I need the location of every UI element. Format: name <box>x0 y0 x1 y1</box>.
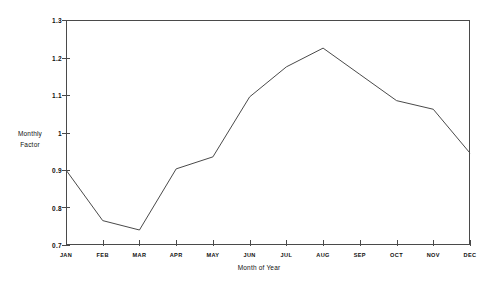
x-axis-tick-label: FEB <box>97 252 109 258</box>
x-axis-tick-label: MAR <box>133 252 147 258</box>
x-axis-tick-label: OCT <box>390 252 403 258</box>
y-axis-title-line-1: Monthly <box>8 128 52 139</box>
y-axis-tick-label: 0.8 <box>52 204 62 211</box>
line-series-monthly-factor <box>66 20 470 245</box>
x-axis-tick-mark <box>103 240 104 246</box>
x-axis-tick-mark <box>286 240 287 246</box>
y-axis-tick-mark <box>62 20 70 21</box>
x-axis-title-text: Month of Year <box>238 264 281 271</box>
chart-page: 0.70.80.911.11.21.3 Monthly Factor JANFE… <box>0 0 490 288</box>
y-axis-tick-mark <box>62 207 70 208</box>
x-axis-tick-label: JUN <box>244 252 256 258</box>
y-axis-tick-mark <box>62 58 70 59</box>
x-axis-tick-mark <box>433 240 434 246</box>
x-axis-tick-mark <box>250 240 251 246</box>
y-axis-tick-mark <box>62 170 70 171</box>
y-axis-title-line-2: Factor <box>8 139 52 150</box>
y-axis-tick-label: 0.9 <box>52 167 62 174</box>
x-axis-tick-label: JUL <box>281 252 293 258</box>
x-axis-tick-mark <box>470 240 471 246</box>
x-axis-tick-mark <box>360 240 361 246</box>
y-axis-tick-mark <box>62 245 70 246</box>
y-axis-tick-label: 1.3 <box>52 17 62 24</box>
y-axis-tick-mark <box>62 95 70 96</box>
x-axis-tick-label: MAY <box>206 252 219 258</box>
y-axis-tick-label: 1.2 <box>52 54 62 61</box>
y-axis-tick-label: 1.1 <box>52 92 62 99</box>
x-axis-tick-label: DEC <box>464 252 477 258</box>
x-axis-tick-label: APR <box>170 252 183 258</box>
x-axis-tick-label: JAN <box>60 252 72 258</box>
x-axis-tick-label: AUG <box>316 252 329 258</box>
x-axis-tick-mark <box>397 240 398 246</box>
x-axis-tick-mark <box>139 240 140 246</box>
y-axis-tick-mark <box>62 133 70 134</box>
x-axis-tick-label: NOV <box>427 252 440 258</box>
x-axis-tick-mark <box>213 240 214 246</box>
x-axis-tick-mark <box>323 240 324 246</box>
y-axis-title: Monthly Factor <box>8 128 52 150</box>
x-axis-title: Month of Year <box>0 264 490 271</box>
x-axis-tick-label: SEP <box>354 252 366 258</box>
x-axis-tick-mark <box>176 240 177 246</box>
y-axis-tick-label: 0.7 <box>52 242 62 249</box>
